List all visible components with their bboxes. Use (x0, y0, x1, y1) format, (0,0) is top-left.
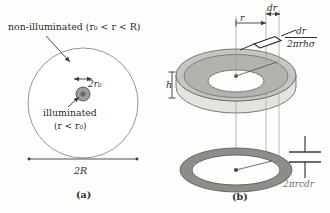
capacitor-symbol (289, 136, 321, 178)
resistance-formula: dr 2πrhσ (285, 26, 317, 49)
illuminated-label: illuminated (43, 108, 97, 117)
panel-b-tag: (b) (232, 192, 248, 202)
height-label: h (166, 80, 172, 90)
panel-a-graphics (28, 36, 138, 159)
resistor-body (254, 37, 281, 49)
outer-sample-circle (28, 48, 138, 158)
inner-diameter-label: 2r₀ (88, 80, 102, 89)
resistance-numerator: dr (285, 26, 317, 37)
illuminated-disc-core (80, 91, 85, 96)
resistance-denominator: 2πrhσ (285, 38, 317, 49)
lower-ring-center-dot (234, 168, 238, 172)
radius-label: r (240, 14, 244, 23)
illuminated-condition-label: (r < r₀) (54, 122, 87, 131)
panel-a-tag: (a) (76, 190, 91, 200)
outer-diameter-label: 2R (74, 166, 87, 176)
differential-radius-label: dr (267, 4, 277, 13)
capacitance-label: 2πrcdr (283, 180, 314, 189)
physics-figure: non-illuminated (r₀ < r < R) 2r₀ illumin… (0, 0, 330, 213)
non-illuminated-label: non-illuminated (r₀ < r < R) (8, 22, 140, 31)
